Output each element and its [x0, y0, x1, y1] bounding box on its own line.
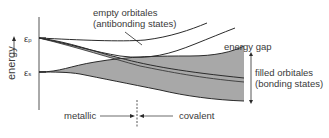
- metallic-label: metallic: [64, 110, 96, 121]
- energy-gap-label: energy gap: [224, 41, 272, 52]
- filled-orbitals-label: filled orbitales: [255, 67, 313, 78]
- y-axis-label: energy: [5, 46, 17, 80]
- antibonding-states-label: (antibonding states): [93, 18, 176, 29]
- empty-orbitals-pointer: [125, 32, 142, 45]
- level-s-label: εs: [24, 67, 31, 80]
- empty-orbitals-label: empty orbitales: [93, 7, 157, 18]
- covalent-label: covalent: [179, 110, 214, 121]
- antibonding-curve-2: [39, 28, 235, 57]
- level-p-label: εp: [24, 33, 32, 46]
- bonding-states-label: (bonding states): [255, 78, 323, 89]
